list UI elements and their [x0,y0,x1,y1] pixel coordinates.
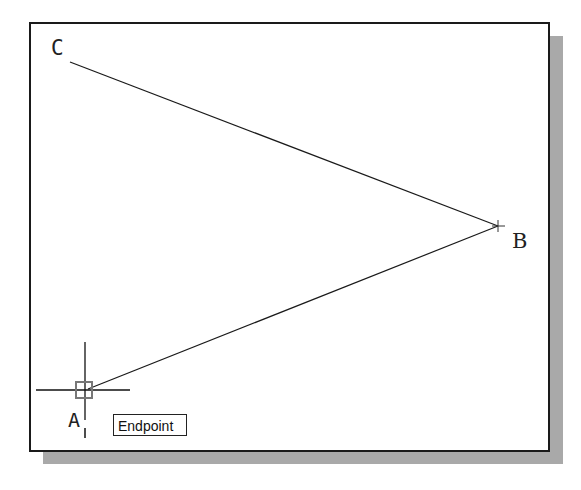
label-a: A [68,408,80,432]
osnap-tooltip: Endpoint [113,414,187,436]
label-b: B [512,229,527,253]
line-c-b[interactable] [70,62,498,226]
point-b-marker [492,220,505,232]
drawing-canvas[interactable]: C B A [0,0,581,490]
label-c: C [51,36,64,60]
osnap-tooltip-text: Endpoint [118,418,173,434]
line-b-a[interactable] [88,226,498,389]
